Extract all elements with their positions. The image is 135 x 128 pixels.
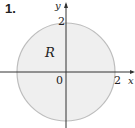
x-tick-label: 2 [114,74,121,87]
origin-label: 0 [56,74,63,87]
y-axis-label: y [55,0,61,11]
region-label: R [45,45,55,60]
x-axis-arrow-icon [130,70,135,74]
x-axis-label: x [128,75,134,86]
y-axis-arrow-icon [64,2,68,8]
y-tick-label: 2 [58,15,65,28]
diagram-canvas [0,0,135,128]
